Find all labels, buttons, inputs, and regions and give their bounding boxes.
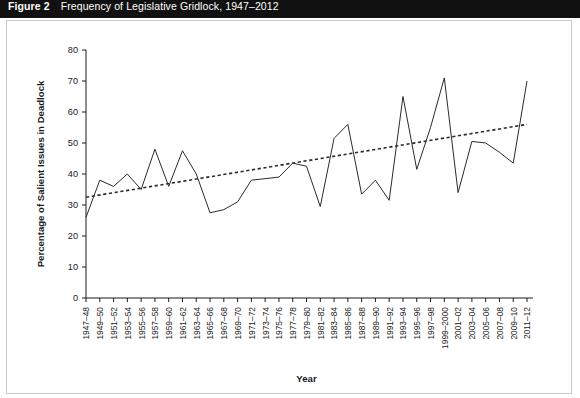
y-tick-label: 10 (68, 262, 78, 272)
gridlock-series-line (86, 78, 527, 218)
x-tick-label: 1979–80 (302, 307, 312, 340)
x-tick-label: 1949–50 (95, 307, 105, 340)
trend-line (86, 124, 527, 197)
x-tick-label: 2003–04 (467, 307, 477, 340)
y-tick-label: 0 (73, 293, 78, 303)
x-tick-label: 1999–2000 (440, 307, 450, 349)
x-tick-label: 1971–72 (247, 307, 257, 340)
x-tick-label: 1969–70 (233, 307, 243, 340)
y-tick-label: 30 (68, 200, 78, 210)
x-tick-label: 1965–66 (205, 307, 215, 340)
y-tick-label: 20 (68, 231, 78, 241)
y-tick-label: 70 (68, 76, 78, 86)
x-tick-label: 1961–62 (178, 307, 188, 340)
x-tick-label: 1989–90 (371, 307, 381, 340)
y-tick-label: 50 (68, 138, 78, 148)
x-tick-label: 2009–10 (509, 307, 519, 340)
x-tick-label: 1947–48 (81, 307, 91, 340)
chart-plot-area: 01020304050607080 1947–481949–501951–521… (0, 0, 580, 398)
x-tick-label: 1991–92 (385, 307, 395, 340)
y-tick-label: 40 (68, 169, 78, 179)
x-tick-label: 1985–86 (343, 307, 353, 340)
x-tick-label: 1987–88 (357, 307, 367, 340)
x-tick-label: 1977–78 (288, 307, 298, 340)
x-tick-label: 1983–84 (329, 307, 339, 340)
y-tick-label: 60 (68, 107, 78, 117)
x-tick-label: 2005–06 (481, 307, 491, 340)
x-tick-label: 1959–60 (164, 307, 174, 340)
x-tick-label: 2007–08 (495, 307, 505, 340)
x-tick-label: 1995–96 (412, 307, 422, 340)
x-tick-label: 1981–82 (316, 307, 326, 340)
y-axis-title: Percentage of Salient Issues in Deadlock (35, 80, 46, 267)
x-tick-label: 1973–74 (261, 307, 271, 340)
x-tick-label: 1955–56 (137, 307, 147, 340)
line-chart-svg: 01020304050607080 1947–481949–501951–521… (0, 0, 580, 398)
x-tick-label: 1967–68 (219, 307, 229, 340)
x-tick-label: 1997–98 (426, 307, 436, 340)
x-tick-label: 1953–54 (123, 307, 133, 340)
x-tick-label: 1963–64 (192, 307, 202, 340)
x-axis-ticks: 1947–481949–501951–521953–541955–561957–… (81, 298, 532, 349)
x-tick-label: 2011–12 (522, 307, 532, 339)
x-tick-label: 1957–58 (150, 307, 160, 340)
x-tick-label: 1993–94 (398, 307, 408, 340)
y-tick-label: 80 (68, 45, 78, 55)
figure-page: Figure 2 Frequency of Legislative Gridlo… (0, 0, 580, 398)
x-tick-label: 1951–52 (109, 307, 119, 340)
x-tick-label: 1975–76 (274, 307, 284, 340)
x-tick-label: 2001–02 (453, 307, 463, 340)
y-axis-ticks: 01020304050607080 (68, 45, 86, 303)
x-axis-title: Year (296, 373, 317, 384)
